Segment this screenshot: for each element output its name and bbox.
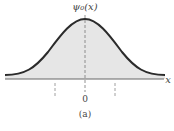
wavefunction-diagram: ψ₀(x) x 0 (a) bbox=[0, 0, 174, 131]
x-axis-label: x bbox=[165, 74, 171, 85]
figure-caption: (a) bbox=[79, 109, 91, 119]
y-axis-label: ψ₀(x) bbox=[72, 1, 97, 12]
origin-label: 0 bbox=[82, 94, 88, 104]
